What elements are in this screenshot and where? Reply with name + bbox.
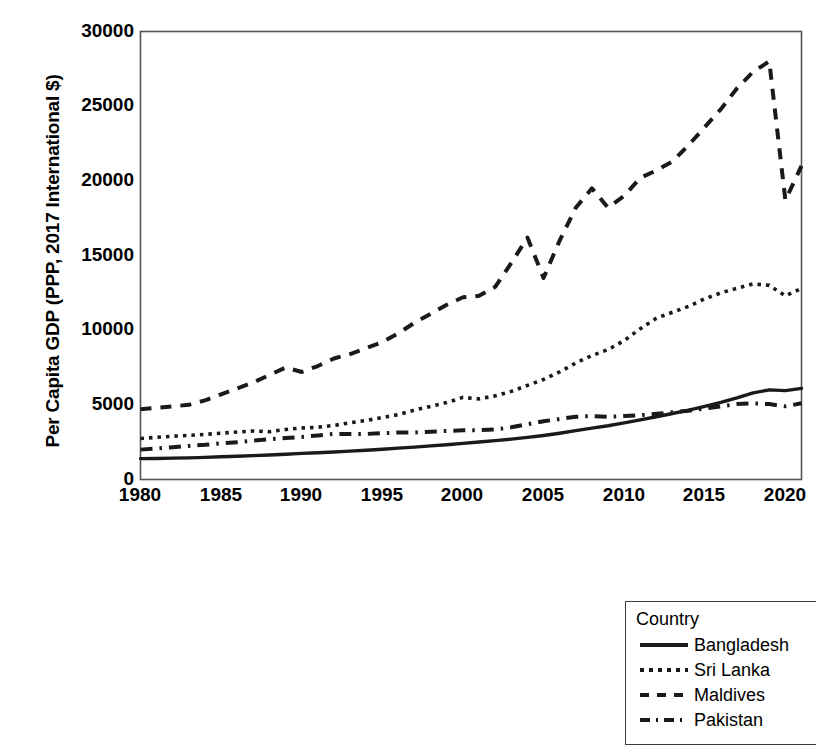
legend-title: Country: [636, 608, 816, 630]
legend-key-dotted-icon: [636, 660, 694, 680]
legend-key-solid-icon: [636, 635, 694, 655]
legend-label-sri-lanka: Sri Lanka: [694, 660, 770, 680]
legend-label-maldives: Maldives: [694, 685, 765, 705]
data-series-layer: [141, 61, 802, 458]
plot-area: [0, 0, 816, 520]
legend-item-sri-lanka[interactable]: Sri Lanka: [636, 657, 816, 682]
legend-item-pakistan[interactable]: Pakistan: [636, 707, 816, 732]
series-line-sri-lanka: [141, 284, 802, 439]
legend-item-bangladesh[interactable]: Bangladesh: [636, 632, 816, 657]
legend-key-dashed-icon: [636, 685, 694, 705]
legend-label-pakistan: Pakistan: [694, 710, 763, 730]
legend-label-bangladesh: Bangladesh: [694, 635, 789, 655]
chart-figure: Per Capita GDP (PPP, 2017 International …: [0, 0, 816, 745]
plot-frame: [141, 32, 802, 480]
legend-item-maldives[interactable]: Maldives: [636, 682, 816, 707]
legend: Country Bangladesh Sri Lanka Maldives Pa…: [625, 601, 816, 745]
legend-key-dashdot-icon: [636, 710, 694, 730]
series-line-maldives: [141, 61, 802, 409]
